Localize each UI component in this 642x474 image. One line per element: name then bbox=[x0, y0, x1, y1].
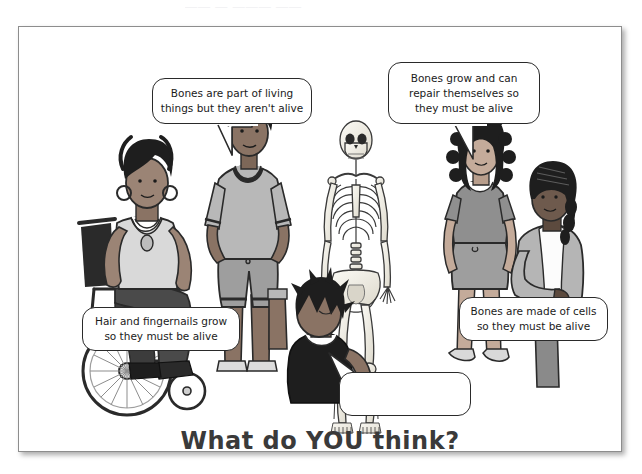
worksheet-screenshot: —— — ——— —— bbox=[0, 0, 642, 474]
bubble-line: Hair and fingernails grow bbox=[95, 314, 227, 329]
speech-bubble-seated-girl: Bones are made of cells so they must be … bbox=[459, 297, 608, 341]
bubble-line: repair themselves so bbox=[409, 86, 519, 101]
bubble-line: so they must be alive bbox=[104, 329, 217, 344]
bubble-line: things but they aren't alive bbox=[161, 101, 303, 116]
bubble-tail-curly-hair-girl bbox=[437, 121, 497, 165]
figure-seated-girl bbox=[512, 161, 584, 387]
bubble-line: Bones are part of living bbox=[171, 86, 293, 101]
bubble-tail-standing-boy bbox=[202, 121, 262, 161]
bubble-line: Bones are made of cells bbox=[471, 304, 597, 319]
worksheet-page: Bones are part of living things but they… bbox=[18, 26, 622, 452]
speech-bubble-standing-boy: Bones are part of living things but they… bbox=[152, 78, 312, 124]
speech-bubble-curly-hair-girl: Bones grow and can repair themselves so … bbox=[388, 62, 540, 124]
page-title: What do YOU think? bbox=[19, 427, 621, 455]
bubble-line: Bones grow and can bbox=[411, 71, 518, 86]
clipped-header-text: —— — ——— —— bbox=[185, 0, 465, 10]
figure-wheelchair-girl bbox=[79, 137, 205, 415]
speech-bubble-wheelchair-girl: Hair and fingernails grow so they must b… bbox=[82, 307, 240, 351]
bubble-line: so they must be alive bbox=[477, 319, 590, 334]
bubble-line: they must be alive bbox=[415, 101, 513, 116]
speech-bubble-blank[interactable] bbox=[339, 372, 471, 416]
